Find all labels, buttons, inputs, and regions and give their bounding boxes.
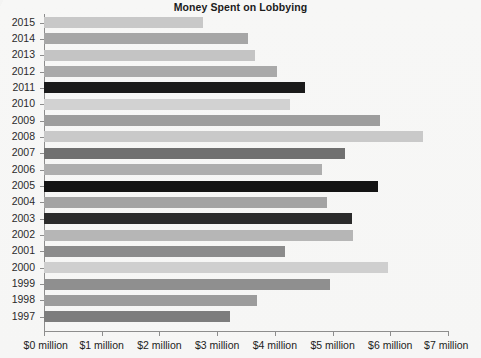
y-tick-mark-2010 [40, 104, 44, 105]
y-tick-mark-1997 [40, 317, 44, 318]
x-tick-label-2: $2 million [137, 339, 181, 351]
bar-2008[interactable] [44, 131, 423, 142]
y-tick-label-2014: 2014 [0, 32, 35, 44]
x-tick-label-4: $4 million [253, 339, 297, 351]
y-tick-mark-2008 [40, 137, 44, 138]
x-tick-mark-6 [390, 331, 391, 336]
bar-fill [44, 82, 305, 93]
y-tick-label-1999: 1999 [0, 277, 35, 289]
bar-fill [44, 115, 380, 126]
bar-2009[interactable] [44, 115, 380, 126]
bar-fill [44, 262, 388, 273]
bar-fill [44, 66, 277, 77]
y-tick-label-2008: 2008 [0, 130, 35, 142]
bar-fill [44, 295, 257, 306]
bar-2004[interactable] [44, 197, 327, 208]
y-tick-label-1997: 1997 [0, 310, 35, 322]
y-tick-mark-2007 [40, 153, 44, 154]
bar-fill [44, 131, 423, 142]
y-tick-mark-2004 [40, 202, 44, 203]
y-tick-mark-2005 [40, 186, 44, 187]
bar-fill [44, 33, 248, 44]
y-tick-label-2001: 2001 [0, 244, 35, 256]
bar-2003[interactable] [44, 213, 352, 224]
y-tick-label-1998: 1998 [0, 293, 35, 305]
x-tick-label-3: $3 million [195, 339, 239, 351]
bar-2006[interactable] [44, 164, 322, 175]
chart-title: Money Spent on Lobbying [0, 1, 481, 13]
y-tick-label-2003: 2003 [0, 212, 35, 224]
bar-1997[interactable] [44, 311, 230, 322]
x-tick-label-1: $1 million [80, 339, 124, 351]
x-tick-mark-4 [275, 331, 276, 336]
y-tick-label-2013: 2013 [0, 48, 35, 60]
bar-fill [44, 148, 345, 159]
x-tick-label-0: $0 million [24, 339, 68, 351]
x-tick-mark-1 [102, 331, 103, 336]
x-tick-mark-7 [448, 331, 449, 336]
bar-2015[interactable] [44, 17, 203, 28]
x-tick-label-7: $7 million [424, 339, 468, 351]
y-tick-label-2006: 2006 [0, 163, 35, 175]
bar-2000[interactable] [44, 262, 388, 273]
x-tick-mark-3 [217, 331, 218, 336]
x-tick-mark-5 [333, 331, 334, 336]
bar-fill [44, 99, 290, 110]
bar-2002[interactable] [44, 230, 353, 241]
y-tick-mark-2011 [40, 88, 44, 89]
x-tick-mark-2 [159, 331, 160, 336]
bar-2010[interactable] [44, 99, 290, 110]
bar-2005[interactable] [44, 181, 378, 192]
y-tick-mark-2013 [40, 55, 44, 56]
y-tick-mark-2014 [40, 39, 44, 40]
x-tick-label-5: $5 million [310, 339, 354, 351]
bar-fill [44, 50, 255, 61]
y-tick-label-2005: 2005 [0, 179, 35, 191]
bar-fill [44, 213, 352, 224]
bar-fill [44, 230, 353, 241]
y-tick-mark-2012 [40, 72, 44, 73]
y-tick-mark-2015 [40, 23, 44, 24]
bar-2013[interactable] [44, 50, 255, 61]
bar-1999[interactable] [44, 279, 330, 290]
y-tick-label-2012: 2012 [0, 65, 35, 77]
y-tick-label-2015: 2015 [0, 16, 35, 28]
y-tick-mark-2002 [40, 235, 44, 236]
bar-2012[interactable] [44, 66, 277, 77]
bar-1998[interactable] [44, 295, 257, 306]
y-tick-mark-2000 [40, 268, 44, 269]
y-tick-mark-2001 [40, 251, 44, 252]
y-tick-mark-1998 [40, 300, 44, 301]
y-tick-label-2007: 2007 [0, 146, 35, 158]
y-tick-label-2002: 2002 [0, 228, 35, 240]
bar-fill [44, 17, 203, 28]
bar-fill [44, 246, 285, 257]
x-axis-line [44, 331, 449, 332]
y-tick-label-2011: 2011 [0, 81, 35, 93]
y-tick-mark-2003 [40, 219, 44, 220]
lobbying-bar-chart: Money Spent on Lobbying 2015201420132012… [0, 0, 481, 358]
y-tick-mark-1999 [40, 284, 44, 285]
bar-fill [44, 197, 327, 208]
x-tick-label-6: $6 million [368, 339, 412, 351]
bar-fill [44, 181, 378, 192]
y-tick-label-2010: 2010 [0, 97, 35, 109]
y-tick-label-2000: 2000 [0, 261, 35, 273]
y-tick-label-2009: 2009 [0, 114, 35, 126]
y-tick-label-2004: 2004 [0, 195, 35, 207]
x-tick-mark-0 [44, 331, 45, 336]
y-tick-mark-2009 [40, 121, 44, 122]
bar-2011[interactable] [44, 82, 305, 93]
bar-2001[interactable] [44, 246, 285, 257]
bar-2007[interactable] [44, 148, 345, 159]
bar-fill [44, 311, 230, 322]
bar-2014[interactable] [44, 33, 248, 44]
bar-fill [44, 164, 322, 175]
y-tick-mark-2006 [40, 170, 44, 171]
bar-fill [44, 279, 330, 290]
